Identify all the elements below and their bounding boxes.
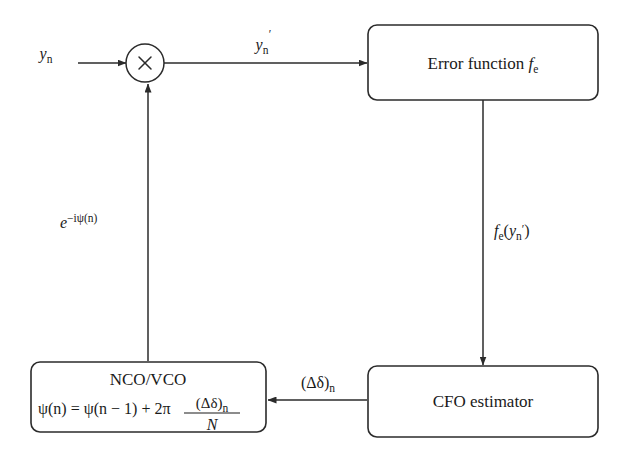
multiplier-node[interactable] bbox=[126, 44, 164, 82]
nco-vco-formula-lhs: ψ(n) = ψ(n − 1) + 2π bbox=[38, 400, 171, 418]
cfo-estimator-node[interactable]: CFO estimator bbox=[368, 366, 598, 437]
error-function-output-label: fe(yn′) bbox=[494, 222, 530, 242]
cfo-estimate-label: (Δδ)n bbox=[301, 374, 335, 394]
cfo-estimate-sub: n bbox=[329, 382, 335, 394]
input-signal-label-sub: n bbox=[47, 53, 53, 65]
error-function-label: Error function fe bbox=[428, 54, 539, 75]
cfo-estimate-base: (Δδ) bbox=[301, 374, 329, 392]
diagram-root: Error function fe CFO estimator NCO/VCO … bbox=[0, 0, 632, 464]
nco-vco-numerator-sub: n bbox=[222, 402, 228, 414]
error-output-paren-close: ) bbox=[524, 222, 529, 240]
error-function-label-main: Error function bbox=[428, 54, 525, 73]
corrected-signal-label: yn ′ bbox=[254, 28, 272, 56]
input-signal-label: yn bbox=[38, 45, 53, 65]
corrected-signal-sub: n bbox=[263, 44, 269, 56]
phase-correction-label: e−iψ(n) bbox=[60, 212, 98, 231]
phase-correction-base: e bbox=[60, 214, 67, 231]
corrected-signal-label-text: yn bbox=[254, 36, 269, 56]
block-diagram-canvas: Error function fe CFO estimator NCO/VCO … bbox=[0, 0, 632, 464]
nco-vco-node[interactable]: NCO/VCO ψ(n) = ψ(n − 1) + 2π (Δδ)n N bbox=[31, 362, 266, 433]
cfo-estimator-label: CFO estimator bbox=[433, 392, 534, 411]
nco-vco-fraction-denominator: N bbox=[206, 416, 219, 433]
nco-vco-numerator-base: (Δδ) bbox=[196, 395, 223, 412]
nco-vco-title: NCO/VCO bbox=[110, 370, 187, 389]
error-function-node[interactable]: Error function fe bbox=[368, 25, 598, 100]
phase-correction-exp-psi: ψ(n) bbox=[77, 212, 98, 225]
corrected-signal-prime: ′ bbox=[269, 28, 272, 40]
error-function-symbol-sub: e bbox=[533, 63, 538, 75]
